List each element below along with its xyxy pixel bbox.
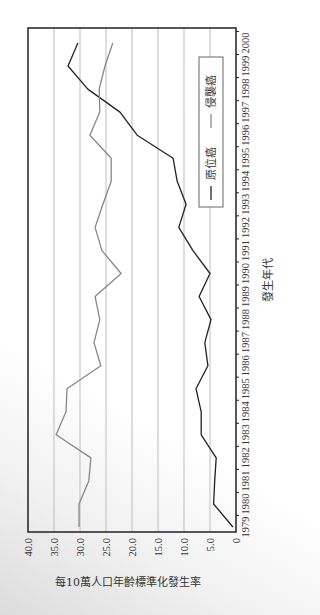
year-tick-label: 1986 (240, 355, 251, 376)
legend-label: 侵襲癌 (204, 75, 218, 108)
year-tick-label: 1979 (240, 517, 251, 538)
year-tick-label: 1993 (240, 194, 251, 215)
value-tick-label: 0 (231, 538, 242, 543)
incidence-line-chart: 1979198019811982198319841985198619871988… (0, 0, 283, 615)
value-tick-label: 5.0 (205, 538, 216, 551)
gridlines (54, 28, 210, 532)
year-tick-label: 1989 (240, 286, 251, 307)
value-axis: 05.010.015.020.025.030.035.040.0 (23, 538, 242, 556)
year-axis: 1979198019811982198319841985198619871988… (236, 31, 251, 537)
series-line-invasive (56, 43, 121, 527)
legend: 原位癌侵襲癌 (199, 57, 223, 207)
year-tick-label: 1991 (240, 240, 251, 261)
year-tick-label: 2000 (240, 33, 251, 54)
legend-label: 原位癌 (204, 147, 218, 180)
value-tick-label: 35.0 (49, 538, 60, 556)
year-tick-label: 1998 (240, 79, 251, 100)
value-tick-label: 30.0 (75, 538, 86, 556)
value-tick-label: 15.0 (153, 538, 164, 556)
value-tick-label: 10.0 (179, 538, 190, 556)
year-tick-label: 1999 (240, 56, 251, 77)
year-tick-label: 1996 (240, 125, 251, 146)
year-tick-label: 1980 (240, 493, 251, 514)
y-axis-title: 每10萬人口年齡標準化發生率 (55, 575, 201, 589)
x-axis-title: 發生年代 (261, 258, 275, 302)
year-tick-label: 1987 (240, 332, 251, 353)
value-tick-label: 25.0 (101, 538, 112, 556)
year-tick-label: 1988 (240, 309, 251, 330)
year-tick-label: 1995 (240, 148, 251, 169)
year-tick-label: 1994 (240, 170, 251, 192)
year-tick-label: 1990 (240, 263, 251, 284)
year-tick-label: 1985 (240, 378, 251, 399)
value-tick-label: 40.0 (23, 538, 34, 556)
year-tick-label: 1984 (240, 401, 251, 423)
year-tick-label: 1983 (240, 424, 251, 445)
year-tick-label: 1992 (240, 217, 251, 238)
year-tick-label: 1981 (240, 470, 251, 491)
year-tick-label: 1982 (240, 447, 251, 468)
year-tick-label: 1997 (240, 102, 251, 123)
value-tick-label: 20.0 (127, 538, 138, 556)
